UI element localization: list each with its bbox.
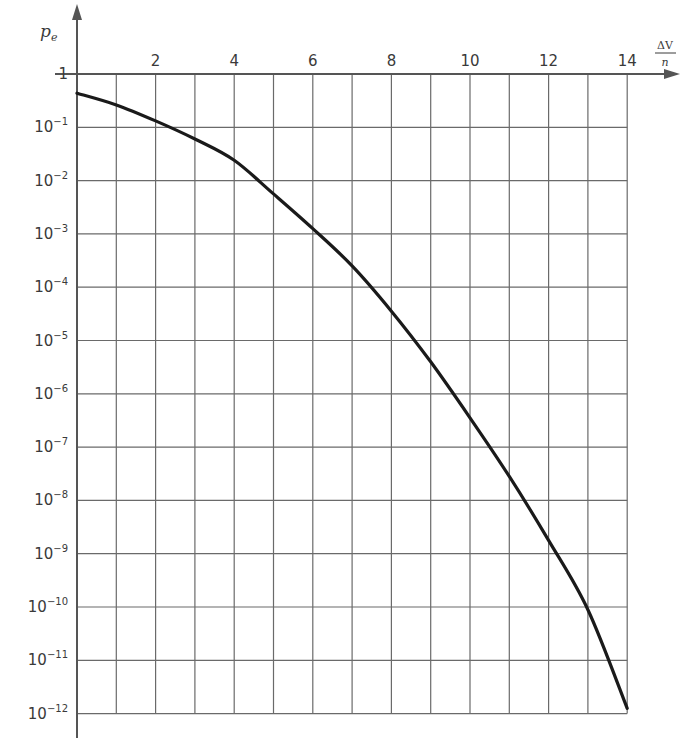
x-tick-label: 2 [151, 52, 161, 70]
y-tick-label: 10−10 [28, 596, 68, 616]
y-tick-label: 1 [58, 65, 68, 83]
y-tick-label: 10−4 [34, 276, 68, 296]
x-tick-label: 4 [229, 52, 239, 70]
y-axis-label-main: p [40, 21, 51, 41]
x-axis-arrow-icon [664, 69, 680, 79]
y-axis-arrow-icon [72, 4, 82, 20]
y-tick-label: 10−5 [34, 330, 68, 350]
y-tick-labels: 110−110−210−310−410−510−610−710−810−910−… [28, 65, 68, 723]
svg-text:pe: pe [40, 21, 58, 44]
axes [55, 4, 680, 738]
x-tick-label: 8 [387, 52, 397, 70]
x-axis-label-numerator: ΔV [657, 39, 674, 52]
y-tick-label: 10−6 [34, 383, 68, 403]
x-axis-label: ΔV n [655, 39, 676, 69]
y-tick-label: 10−3 [34, 223, 68, 243]
x-tick-label: 12 [539, 52, 558, 70]
x-tick-label: 10 [460, 52, 479, 70]
y-tick-label: 10−7 [34, 436, 68, 456]
x-tick-label: 6 [308, 52, 318, 70]
grid-lines [77, 74, 627, 714]
x-tick-label: 14 [618, 52, 637, 70]
y-tick-label: 10−1 [34, 116, 68, 136]
y-tick-label: 10−11 [28, 649, 68, 669]
y-axis-label: pe [40, 21, 58, 44]
y-tick-label: 10−12 [28, 703, 68, 723]
y-tick-label: 10−9 [34, 543, 68, 563]
chart: 2468101214 110−110−210−310−410−510−610−7… [0, 0, 694, 753]
y-axis-label-sub: e [51, 31, 58, 44]
x-tick-labels: 2468101214 [151, 52, 637, 70]
y-tick-label: 10−2 [34, 170, 68, 190]
x-axis-label-denominator: n [661, 56, 668, 69]
y-tick-label: 10−8 [34, 489, 68, 509]
